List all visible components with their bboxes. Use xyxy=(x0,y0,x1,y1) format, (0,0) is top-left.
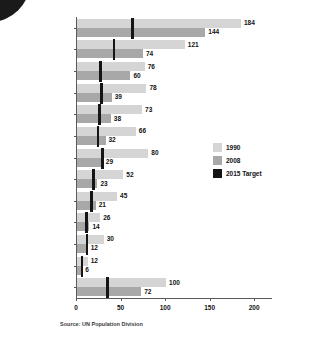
x-tick xyxy=(210,298,211,301)
bar-group: Developed regions126 xyxy=(77,257,273,275)
x-tick xyxy=(254,298,255,301)
bar-value-2008: 14 xyxy=(92,222,99,231)
bar-2008 xyxy=(77,28,205,37)
bar-1990 xyxy=(77,105,142,114)
bar-value-2008: 39 xyxy=(115,92,122,101)
bar-value-1990: 100 xyxy=(169,278,180,287)
bar-1990 xyxy=(77,84,146,93)
x-tick xyxy=(76,298,77,301)
bar-group: Eastern Asia4521 xyxy=(77,192,273,210)
bar-value-2008: 144 xyxy=(208,27,219,36)
target-marker-2015 xyxy=(106,277,109,298)
target-marker-2015 xyxy=(92,169,95,190)
target-marker-2015 xyxy=(113,39,116,60)
bar-2008 xyxy=(77,201,96,210)
bar-value-1990: 52 xyxy=(126,170,133,179)
target-marker-2015 xyxy=(101,148,104,169)
bar-group: Transition countries ofSouth-Eastern Eur… xyxy=(77,235,273,253)
chart-legend: 199020082015 Target xyxy=(213,143,262,182)
legend-swatch xyxy=(213,143,222,152)
legend-swatch xyxy=(213,169,222,178)
bar-2008 xyxy=(77,136,106,145)
bar-2008 xyxy=(77,49,143,58)
bar-value-2008: 60 xyxy=(133,71,140,80)
bar-value-1990: 76 xyxy=(148,62,155,71)
bar-group: Oceania7660 xyxy=(77,62,273,80)
bar-value-2008: 21 xyxy=(99,200,106,209)
bar-2008 xyxy=(77,158,103,167)
x-tick-label: 200 xyxy=(249,304,260,311)
bar-value-2008: 38 xyxy=(114,114,121,123)
bar-value-1990: 12 xyxy=(91,256,98,265)
bar-value-1990: 121 xyxy=(188,40,199,49)
bar-group: Sub-Saharan Africa184144 xyxy=(77,19,273,37)
bar-value-2008: 74 xyxy=(146,49,153,58)
target-marker-2015 xyxy=(85,212,88,233)
bar-group: CIS Europe2614 xyxy=(77,213,273,231)
legend-item: 2008 xyxy=(213,156,262,165)
legend-label: 2015 Target xyxy=(226,170,262,177)
bar-value-1990: 45 xyxy=(120,191,127,200)
bar-value-2008: 32 xyxy=(109,135,116,144)
x-tick xyxy=(165,298,166,301)
bar-value-2008: 29 xyxy=(106,157,113,166)
x-tick-label: 150 xyxy=(204,304,215,311)
bar-1990 xyxy=(77,192,117,201)
legend-swatch xyxy=(213,156,222,165)
bar-1990 xyxy=(77,40,185,49)
bar-value-1990: 78 xyxy=(149,83,156,92)
x-tick-label: 100 xyxy=(160,304,171,311)
bar-1990 xyxy=(77,127,136,136)
target-marker-2015 xyxy=(81,256,84,277)
bar-1990 xyxy=(77,278,166,287)
target-marker-2015 xyxy=(86,234,89,255)
x-tick xyxy=(121,298,122,301)
bar-value-2008: 6 xyxy=(85,265,89,274)
legend-label: 1990 xyxy=(226,144,240,151)
bar-group: Developing regions10072 xyxy=(77,278,273,296)
bar-2008 xyxy=(77,93,112,102)
bar-group: South-Eastern Asia7338 xyxy=(77,105,273,123)
x-tick-label: 0 xyxy=(74,304,78,311)
bar-2008 xyxy=(77,222,89,231)
bar-2008 xyxy=(77,71,130,80)
bar-value-1990: 30 xyxy=(107,234,114,243)
bar-value-1990: 26 xyxy=(103,213,110,222)
bar-value-1990: 184 xyxy=(244,18,255,27)
bar-value-1990: 80 xyxy=(151,148,158,157)
target-marker-2015 xyxy=(131,18,134,39)
legend-item: 1990 xyxy=(213,143,262,152)
bar-value-2008: 23 xyxy=(100,179,107,188)
bar-2008 xyxy=(77,287,141,296)
target-marker-2015 xyxy=(98,104,101,125)
legend-label: 2008 xyxy=(226,157,240,164)
bar-value-2008: 72 xyxy=(144,287,151,296)
bar-value-1990: 66 xyxy=(139,126,146,135)
target-marker-2015 xyxy=(97,126,100,147)
x-tick-label: 50 xyxy=(117,304,124,311)
source-note: Source: UN Population Division xyxy=(60,321,143,327)
bar-2008 xyxy=(77,114,111,123)
target-marker-2015 xyxy=(90,191,93,212)
bar-value-1990: 73 xyxy=(145,105,152,114)
x-axis-line xyxy=(76,298,272,299)
bar-group: CIS Asia7839 xyxy=(77,84,273,102)
bar-group: Southern Asia12174 xyxy=(77,40,273,58)
legend-item: 2015 Target xyxy=(213,169,262,178)
target-marker-2015 xyxy=(100,83,103,104)
target-marker-2015 xyxy=(99,61,102,82)
bar-value-2008: 12 xyxy=(91,243,98,252)
